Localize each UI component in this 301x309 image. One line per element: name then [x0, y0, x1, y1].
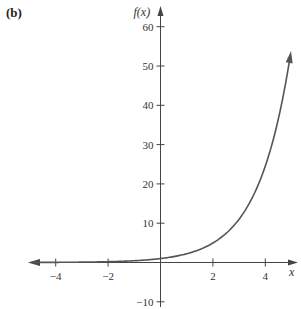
x-tick-label: 4: [263, 270, 269, 282]
function-curve: [32, 51, 293, 262]
y-tick-label: 10: [143, 217, 155, 229]
x-axis-label: x: [288, 265, 295, 279]
ticks: −4−224−10102030405060: [50, 21, 269, 308]
y-tick-label: 40: [143, 99, 155, 111]
curve-arrow-icon: [286, 51, 293, 63]
x-tick-label: −4: [50, 270, 62, 282]
y-tick-label: −10: [136, 296, 154, 308]
y-axis-arrow-icon: [158, 6, 164, 16]
curve-path: [32, 56, 290, 262]
y-tick-label: 20: [143, 178, 155, 190]
y-axis-label: f(x): [134, 5, 151, 19]
y-tick-label: 30: [143, 139, 155, 151]
x-tick-label: −2: [102, 270, 114, 282]
exponential-chart: f(x)x −4−224−10102030405060: [0, 0, 301, 309]
y-tick-label: 60: [143, 21, 155, 33]
y-tick-label: 50: [143, 60, 155, 72]
x-tick-label: 2: [210, 270, 216, 282]
